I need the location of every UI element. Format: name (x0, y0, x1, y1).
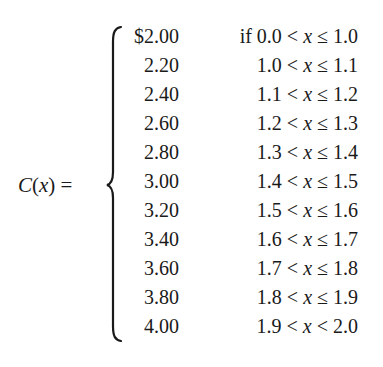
case-value: 3.40 (124, 225, 179, 254)
case-value: 3.00 (124, 167, 179, 196)
lower-bound: 1.8 (257, 286, 282, 308)
lower-bound: 1.0 (257, 54, 282, 76)
equals-sign: = (61, 173, 73, 197)
operator-upper: ≤ (317, 25, 328, 47)
upper-bound: 2.0 (333, 315, 358, 337)
condition-variable: x (303, 141, 312, 163)
condition-variable: x (303, 199, 312, 221)
operator-upper: ≤ (317, 141, 328, 163)
close-paren: ) (48, 173, 55, 197)
case-value: 4.00 (124, 312, 179, 341)
operator-lower: < (287, 25, 298, 47)
operator-upper: ≤ (317, 228, 328, 250)
lower-bound: 1.1 (257, 83, 282, 105)
operator-lower: < (287, 54, 298, 76)
operator-lower: < (287, 170, 298, 192)
operator-lower: < (287, 228, 298, 250)
operator-lower: < (287, 315, 298, 337)
operator-upper: ≤ (317, 257, 328, 279)
upper-bound: 1.1 (333, 54, 358, 76)
condition-variable: x (303, 83, 312, 105)
lower-bound: 1.2 (257, 112, 282, 134)
condition-variable: x (303, 228, 312, 250)
case-value: 2.40 (124, 80, 179, 109)
function-name: C (18, 173, 32, 197)
case-condition: 1.2 < x ≤ 1.3 (202, 109, 358, 138)
case-condition: if 0.0 < x ≤ 1.0 (202, 22, 358, 51)
operator-lower: < (287, 286, 298, 308)
condition-variable: x (303, 25, 312, 47)
case-value: $2.00 (124, 22, 179, 51)
condition-variable: x (303, 54, 312, 76)
case-condition: 1.8 < x ≤ 1.9 (202, 283, 358, 312)
condition-variable: x (303, 315, 312, 337)
condition-variable: x (303, 286, 312, 308)
condition-variable: x (303, 112, 312, 134)
operator-lower: < (287, 83, 298, 105)
open-paren: ( (32, 173, 39, 197)
case-condition: 1.0 < x ≤ 1.1 (202, 51, 358, 80)
case-condition: 1.7 < x ≤ 1.8 (202, 254, 358, 283)
operator-upper: ≤ (317, 112, 328, 134)
case-value: 2.80 (124, 138, 179, 167)
case-value: 3.20 (124, 196, 179, 225)
upper-bound: 1.5 (333, 170, 358, 192)
case-value: 2.20 (124, 51, 179, 80)
operator-upper: ≤ (317, 83, 328, 105)
operator-lower: < (287, 257, 298, 279)
case-value: 2.60 (124, 109, 179, 138)
upper-bound: 1.9 (333, 286, 358, 308)
lower-bound: 1.9 (257, 315, 282, 337)
case-value: 3.60 (124, 254, 179, 283)
case-condition: 1.5 < x ≤ 1.6 (202, 196, 358, 225)
condition-variable: x (303, 170, 312, 192)
lower-bound: 1.6 (257, 228, 282, 250)
upper-bound: 1.4 (333, 141, 358, 163)
upper-bound: 1.3 (333, 112, 358, 134)
upper-bound: 1.0 (333, 25, 358, 47)
upper-bound: 1.2 (333, 83, 358, 105)
condition-prefix: if (240, 25, 257, 47)
upper-bound: 1.8 (333, 257, 358, 279)
lower-bound: 1.4 (257, 170, 282, 192)
operator-upper: ≤ (317, 199, 328, 221)
case-condition: 1.3 < x ≤ 1.4 (202, 138, 358, 167)
lower-bound: 1.3 (257, 141, 282, 163)
lower-bound: 1.5 (257, 199, 282, 221)
case-condition: 1.6 < x ≤ 1.7 (202, 225, 358, 254)
lower-bound: 1.7 (257, 257, 282, 279)
operator-lower: < (287, 199, 298, 221)
upper-bound: 1.7 (333, 228, 358, 250)
operator-lower: < (287, 141, 298, 163)
left-curly-brace-icon (104, 24, 126, 344)
upper-bound: 1.6 (333, 199, 358, 221)
case-condition: 1.4 < x ≤ 1.5 (202, 167, 358, 196)
operator-lower: < (287, 112, 298, 134)
case-condition: 1.1 < x ≤ 1.2 (202, 80, 358, 109)
operator-upper: ≤ (317, 170, 328, 192)
case-condition: 1.9 < x < 2.0 (202, 312, 358, 341)
equation-lhs: C(x) = (18, 170, 72, 200)
operator-upper: ≤ (317, 54, 328, 76)
function-variable: x (39, 173, 48, 197)
operator-upper: < (317, 315, 328, 337)
condition-variable: x (303, 257, 312, 279)
case-value: 3.80 (124, 283, 179, 312)
operator-upper: ≤ (317, 286, 328, 308)
lower-bound: 0.0 (257, 25, 282, 47)
